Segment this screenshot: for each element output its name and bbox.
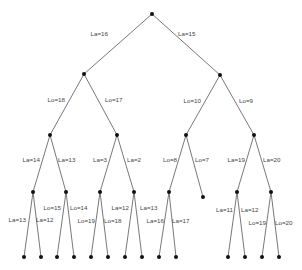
- edge-label: La=15: [178, 30, 196, 37]
- edge-label: La=12: [241, 206, 259, 213]
- tree-node: [31, 190, 35, 194]
- edge-label: Lo=8: [163, 156, 177, 163]
- tree-edge: [50, 74, 84, 135]
- leaf-node: [72, 255, 76, 259]
- tree-edge: [50, 135, 66, 192]
- edge-label: La=13: [58, 156, 76, 163]
- tree-edge: [169, 135, 186, 192]
- leaf-node: [174, 255, 178, 259]
- tree-edge: [91, 192, 100, 257]
- edge-label: La=19: [228, 156, 246, 163]
- edge-label: La=11: [216, 206, 233, 213]
- tree-node: [218, 73, 222, 77]
- edge-label: Lo=15: [44, 204, 62, 211]
- tree-node: [98, 190, 102, 194]
- tree-node: [252, 133, 256, 137]
- tree-edge: [100, 192, 108, 257]
- leaf-node: [140, 255, 144, 259]
- tree-edge: [125, 192, 134, 257]
- tree-diagram: La=16La=15Lo=18Lo=17Lo=10Lo=9La=14La=13L…: [0, 0, 302, 270]
- tree-node: [235, 190, 239, 194]
- leaf-node: [55, 255, 59, 259]
- leaf-node: [260, 255, 264, 259]
- leaf-node: [22, 255, 26, 259]
- leaf-node: [106, 255, 110, 259]
- edge-label: Lo=14: [70, 204, 88, 211]
- edge-label: La=14: [23, 156, 41, 163]
- edge-label: La=2: [127, 156, 141, 163]
- tree-edge: [24, 192, 33, 257]
- tree-edge: [237, 135, 254, 192]
- tree-edge: [33, 135, 50, 192]
- edge-label: La=13: [9, 216, 27, 223]
- edge-label: Lo=7: [195, 156, 209, 163]
- tree-node: [48, 133, 52, 137]
- leaf-node: [89, 255, 93, 259]
- tree-edge: [100, 135, 117, 192]
- tree-node: [150, 12, 154, 16]
- edge-label: Lo=9: [239, 97, 253, 104]
- tree-edge: [84, 74, 117, 135]
- tree-node: [269, 190, 273, 194]
- edge-label: Lo=17: [105, 96, 123, 103]
- leaf-node: [39, 255, 43, 259]
- leaf-node: [277, 255, 281, 259]
- edge-label: La=16: [147, 217, 165, 224]
- tree-edge: [220, 75, 254, 135]
- edge-label: Lo=18: [48, 96, 66, 103]
- edge-label: Lo=18: [104, 217, 122, 224]
- tree-node: [167, 190, 171, 194]
- leaf-node: [157, 255, 161, 259]
- edge-label: Lo=19: [249, 219, 267, 226]
- tree-edge: [84, 14, 152, 74]
- tree-node: [132, 190, 136, 194]
- tree-node: [184, 133, 188, 137]
- edge-label: La=20: [263, 156, 281, 163]
- tree-edge: [159, 192, 169, 257]
- tree-node: [82, 72, 86, 76]
- tree-node: [201, 195, 205, 199]
- tree-edge: [117, 135, 134, 192]
- tree-edge: [186, 75, 220, 135]
- tree-edge: [186, 135, 203, 197]
- tree-edge: [33, 192, 41, 257]
- edge-label: Lo=19: [78, 217, 96, 224]
- tree-edge: [169, 192, 176, 257]
- edge-label: La=13: [140, 204, 158, 211]
- tree-node: [115, 133, 119, 137]
- tree-canvas: La=16La=15Lo=18Lo=17Lo=10Lo=9La=14La=13L…: [0, 0, 302, 270]
- leaf-node: [243, 255, 247, 259]
- leaf-node: [123, 255, 127, 259]
- edge-label: Lo=20: [275, 219, 293, 226]
- edge-label: La=12: [112, 204, 130, 211]
- tree-edge: [66, 192, 74, 257]
- edge-label: La=3: [93, 156, 107, 163]
- tree-edge: [228, 192, 237, 257]
- edge-label: Lo=10: [184, 97, 202, 104]
- edge-label: La=17: [172, 217, 190, 224]
- tree-edge: [57, 192, 66, 257]
- edge-label: La=12: [36, 216, 54, 223]
- tree-edge: [254, 135, 271, 192]
- edge-label: La=16: [91, 30, 109, 37]
- tree-edge: [134, 192, 142, 257]
- tree-edge: [152, 14, 220, 75]
- tree-edge: [237, 192, 245, 257]
- leaf-node: [226, 255, 230, 259]
- tree-node: [64, 190, 68, 194]
